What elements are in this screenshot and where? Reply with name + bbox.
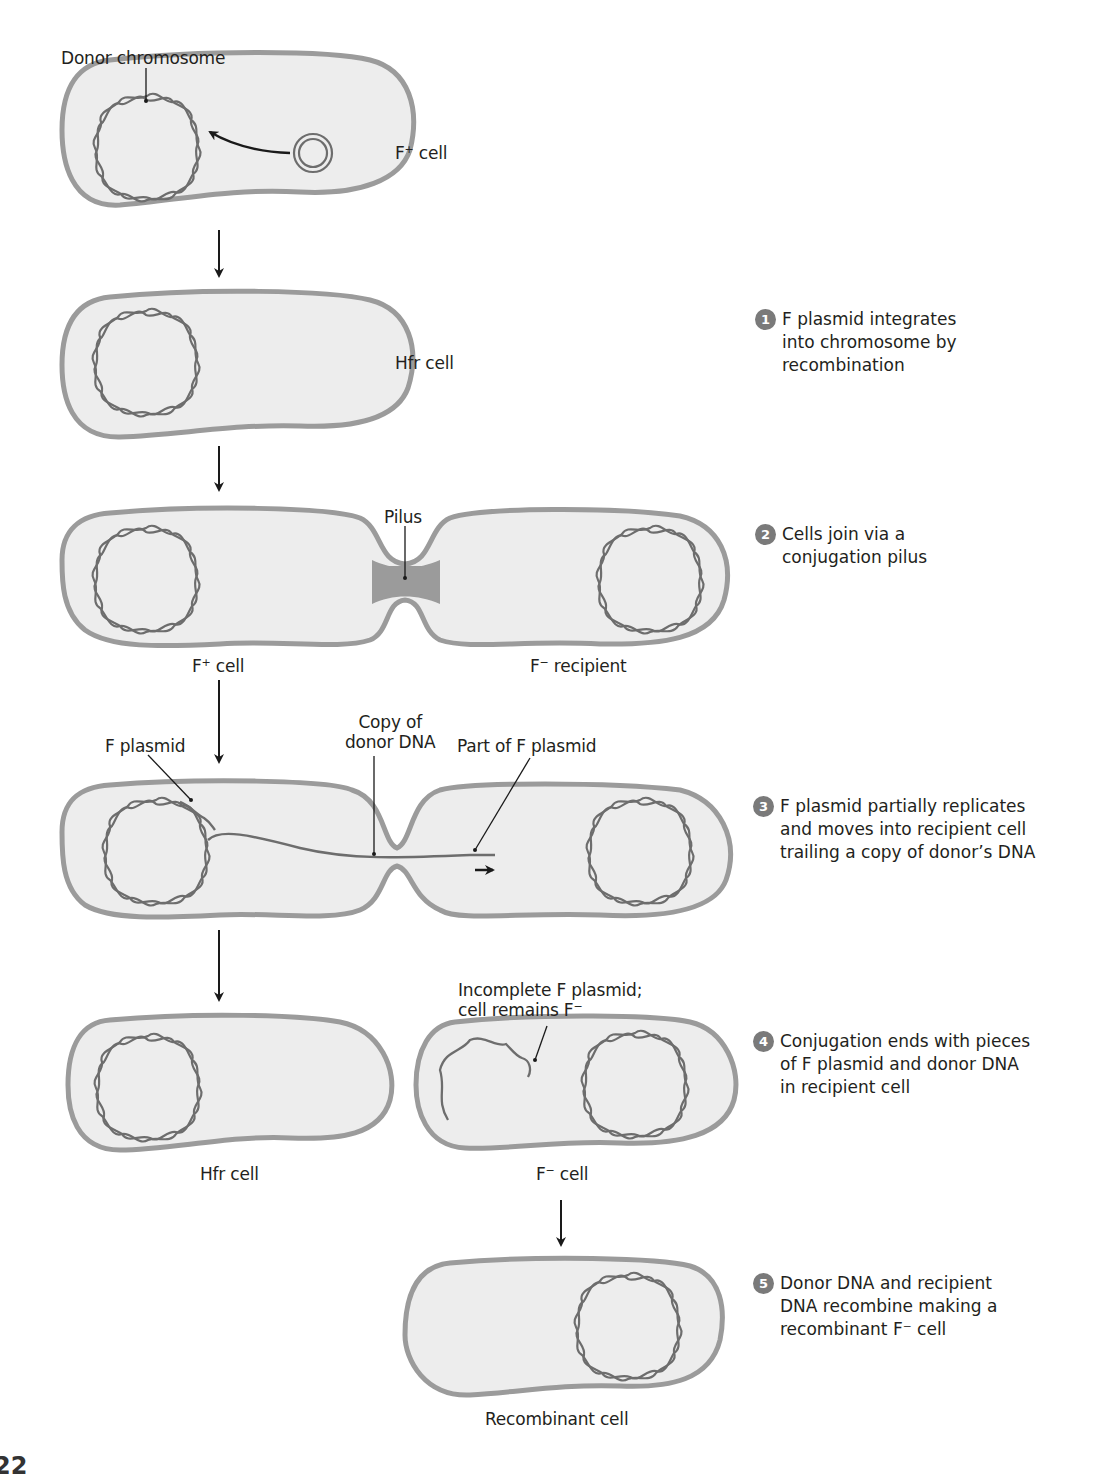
step-text: Cells join via a conjugation pilus [782, 523, 927, 569]
label-pilus: Pilus [384, 506, 422, 528]
dna-transfer-cells [62, 755, 730, 917]
step-text: Donor DNA and recipient DNA recombine ma… [780, 1272, 997, 1341]
label-f-plus-cell-2: F+ cell [192, 655, 244, 677]
step-text: Conjugation ends with pieces of F plasmi… [780, 1030, 1030, 1099]
label-hfr-cell-2: Hfr cell [200, 1163, 259, 1185]
step-4: 4 Conjugation ends with pieces of F plas… [753, 1030, 1030, 1099]
label-hfr-cell-1: Hfr cell [395, 352, 454, 374]
step-number-badge: 3 [753, 796, 774, 817]
step-number-badge: 4 [753, 1031, 774, 1052]
f-minus-cell [416, 1016, 736, 1148]
pilus-joined-cells [62, 508, 727, 646]
label-copy-of-donor-dna: Copy ofdonor DNA [345, 712, 435, 752]
step-text: F plasmid partially replicates and moves… [780, 795, 1035, 864]
label-incomplete-f-plasmid: Incomplete F plasmid;cell remains F− [458, 980, 642, 1020]
label-recombinant-cell: Recombinant cell [485, 1408, 628, 1430]
label-f-minus-recipient: F− recipient [530, 655, 627, 677]
step-2: 2 Cells join via a conjugation pilus [755, 523, 927, 569]
f-plus-cell-1 [62, 53, 414, 206]
hfr-cell-1 [62, 291, 413, 437]
step-5: 5 Donor DNA and recipient DNA recombine … [753, 1272, 997, 1341]
label-f-minus-cell: F− cell [536, 1163, 588, 1185]
step-number-badge: 1 [755, 309, 776, 330]
recombinant-cell [405, 1258, 722, 1395]
step-number-badge: 5 [753, 1273, 774, 1294]
step-1: 1 F plasmid integrates into chromosome b… [755, 308, 957, 377]
label-part-of-f-plasmid: Part of F plasmid [457, 735, 596, 757]
label-donor-chromosome: Donor chromosome [61, 47, 225, 69]
step-3: 3 F plasmid partially replicates and mov… [753, 795, 1035, 864]
step-number-badge: 2 [755, 524, 776, 545]
step-text: F plasmid integrates into chromosome by … [782, 308, 957, 377]
label-f-plasmid: F plasmid [105, 735, 185, 757]
hfr-cell-2 [68, 1015, 392, 1150]
label-f-plus-cell-1: F+ cell [395, 142, 447, 164]
page-number: 22 [0, 1452, 27, 1478]
